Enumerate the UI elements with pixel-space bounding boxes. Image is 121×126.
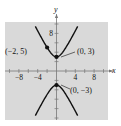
data-point <box>45 45 49 49</box>
point-label: (−2, 5) <box>5 47 27 56</box>
x-tick-label: −4 <box>34 73 42 82</box>
hyperbola-chart: −8−4488(−2, 5)(0, 3)(0, −3) x y <box>0 0 121 126</box>
data-point <box>54 55 58 59</box>
x-tick-label: 8 <box>92 73 96 82</box>
point-label: (0, −3) <box>70 86 92 95</box>
point-label: (0, 3) <box>77 47 95 56</box>
y-axis-arrow-icon <box>55 14 58 18</box>
x-tick-label: 4 <box>73 73 77 82</box>
y-axis-label: y <box>53 5 58 14</box>
x-tick-label: −8 <box>15 73 23 82</box>
x-axis-label: x <box>111 66 116 75</box>
y-tick-label: 8 <box>49 29 53 38</box>
data-point <box>54 83 58 87</box>
